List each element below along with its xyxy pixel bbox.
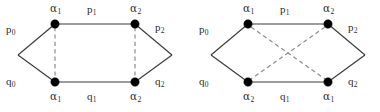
edge-label-q0: q0 <box>199 76 208 88</box>
node-label-top-left: α1 <box>50 3 61 15</box>
node-top-right <box>324 20 332 28</box>
edge-label-q2: q2 <box>348 76 357 88</box>
node-bottom-right <box>324 78 332 86</box>
edge-p2 <box>328 24 365 55</box>
edge-q2 <box>328 55 365 82</box>
node-label-bottom-left: α1 <box>50 91 61 103</box>
diagram-right: α1 α2 α2 α1 p0 p1 p2 q0 q1 q2 <box>190 0 380 112</box>
node-label-top-right: α2 <box>130 3 141 15</box>
edge-label-p0: p0 <box>199 24 208 36</box>
node-top-left <box>244 20 252 28</box>
edge-label-q1: q1 <box>87 91 96 103</box>
figure-root: α1 α2 α1 α2 p0 p1 p2 q0 q1 q2 <box>0 0 380 112</box>
edge-label-p2: p2 <box>155 22 164 34</box>
edge-p0 <box>18 24 55 55</box>
node-label-bottom-right: α1 <box>323 91 334 103</box>
diagram-left: α1 α2 α1 α2 p0 p1 p2 q0 q1 q2 <box>0 0 190 112</box>
node-label-top-right: α2 <box>323 3 334 15</box>
node-bottom-right <box>131 78 139 86</box>
edge-q0 <box>211 55 248 82</box>
node-top-left <box>51 20 59 28</box>
edge-label-q0: q0 <box>6 76 15 88</box>
edge-label-p1: p1 <box>280 4 289 16</box>
edge-label-p0: p0 <box>6 24 15 36</box>
edge-label-p1: p1 <box>87 4 96 16</box>
node-bottom-left <box>244 78 252 86</box>
edge-q0 <box>18 55 55 82</box>
edge-label-q1: q1 <box>280 91 289 103</box>
node-label-bottom-left: α2 <box>243 91 254 103</box>
edge-q2 <box>135 55 172 82</box>
edge-p0 <box>211 24 248 55</box>
node-label-bottom-right: α2 <box>130 91 141 103</box>
edge-label-p2: p2 <box>348 22 357 34</box>
edge-p2 <box>135 24 172 55</box>
node-top-right <box>131 20 139 28</box>
edge-label-q2: q2 <box>155 76 164 88</box>
node-label-top-left: α1 <box>243 3 254 15</box>
node-bottom-left <box>51 78 59 86</box>
